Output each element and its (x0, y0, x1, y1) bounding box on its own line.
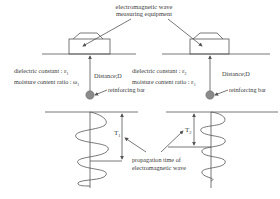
right-rebar-icon (206, 91, 214, 99)
left-dielectric-label: dielectric constant : ε1 (14, 67, 69, 76)
left-equipment-pointer (83, 19, 131, 46)
right-wave (201, 112, 226, 181)
left-rebar-pointer (95, 90, 107, 95)
left-waveform-panel (45, 112, 138, 188)
t1-label: T1 (114, 129, 121, 138)
left-wave (76, 112, 109, 186)
propagation-label-line1: propagation time of (132, 156, 182, 163)
left-equipment-top (73, 33, 103, 39)
propagation-pointer-right (161, 131, 183, 152)
right-dielectric-label: dielectric constant : ε2 (132, 67, 187, 76)
left-moisture-label: moisture content ratio : ω1 (14, 78, 79, 87)
right-equipment-pointer (168, 19, 202, 46)
left-equipment-box (69, 39, 110, 54)
left-rebar-icon (86, 91, 94, 99)
left-rebar-label: reinforcing bar (108, 86, 145, 93)
right-waveform-panel (166, 112, 278, 188)
equipment-label-line1: electromagnetic wave (116, 3, 173, 10)
left-distance-label: Distance;D (94, 72, 122, 79)
right-rebar-pointer (215, 90, 228, 95)
diagram-canvas: electromagnetic wave measuring equipment… (0, 0, 280, 199)
propagation-pointer-left (125, 138, 146, 152)
right-distance-label: Distance;D (222, 70, 250, 77)
right-equipment-top (193, 33, 223, 39)
equipment-label-line2: measuring equipment (116, 10, 172, 17)
right-rebar-label: reinforcing bar (229, 86, 266, 93)
propagation-label-line2: electromagnetic wave (132, 164, 186, 171)
t2-label: T2 (185, 126, 192, 135)
